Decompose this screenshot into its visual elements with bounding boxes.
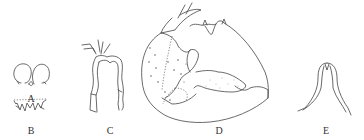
panel-label-c: C [107, 126, 114, 136]
panel-label-a: A [27, 94, 34, 104]
panel-label-d: D [215, 126, 222, 136]
figure-drawings [0, 0, 364, 140]
panel-label-b: B [28, 126, 35, 136]
panel-d-drawing [142, 3, 269, 123]
panel-label-e: E [323, 126, 329, 136]
figure-plate: A B C D E [0, 0, 364, 140]
panel-c-drawing [82, 40, 123, 112]
panel-e-drawing [298, 63, 351, 115]
bristle-dots [148, 47, 238, 101]
panel-a-drawing [14, 64, 50, 86]
